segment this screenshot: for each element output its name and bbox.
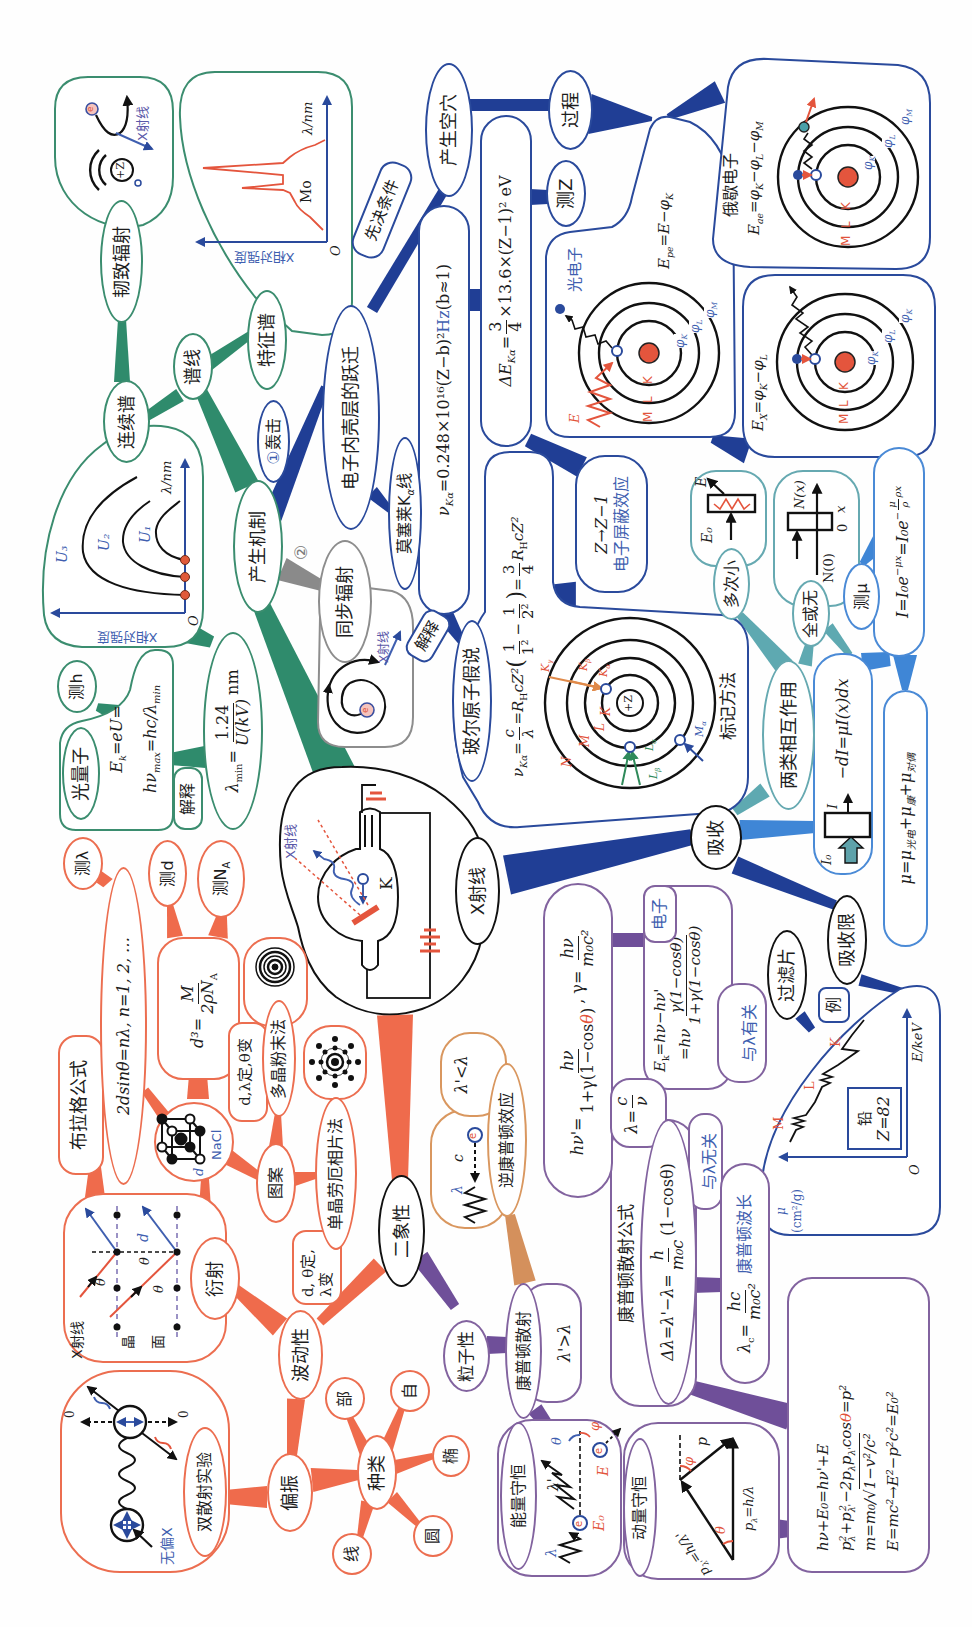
nucleus-label: +Z	[115, 162, 127, 179]
node-xray-root: X射线	[455, 837, 500, 945]
theta-label: θ	[550, 1437, 564, 1445]
node-kind-elliptical: 椭	[432, 1435, 470, 1477]
t4: cos	[837, 1422, 855, 1447]
crystal-name: NaCl	[210, 1130, 224, 1160]
screening-line2: 电子屏蔽效应	[612, 476, 631, 572]
s3: λ'	[846, 1447, 857, 1455]
eq2: =	[509, 578, 527, 591]
laue-pattern-picture	[303, 1025, 367, 1100]
node-pattern: 图案	[256, 1143, 296, 1223]
t: φ	[898, 315, 912, 323]
unit: nm	[223, 669, 242, 694]
t: L	[643, 744, 656, 751]
atomic-number: Z=82	[874, 1096, 893, 1141]
node-momentum-conservation: 动量守恒	[623, 1438, 657, 1577]
moseley-formula-box: νKα=0.248×10¹⁶(Z−b)²Hz(b≈1)	[418, 205, 470, 615]
b: =0.248×10¹⁶(Z−b)²	[434, 333, 453, 492]
node-bohr-hypothesis: 玻尔原子假说	[452, 620, 492, 782]
lhs: λ=	[622, 1110, 641, 1134]
edge-label-l: L	[803, 1081, 817, 1090]
relation-momentum: p2λ+p2λ'−2pλpλ'cosθ=p²	[835, 1385, 858, 1551]
incident-lambda-label: λ	[544, 1548, 559, 1557]
bragg-title: 布拉格公式	[68, 1060, 90, 1150]
node-synchrotron: 同步辐射	[318, 540, 372, 663]
characteristic-y-label: X相对强度	[224, 250, 304, 264]
origin-label: O	[329, 245, 343, 256]
t: φ	[703, 310, 717, 318]
shell-label: L	[642, 396, 655, 403]
denominator: m₀c²	[579, 928, 597, 969]
ek-sub: k	[117, 755, 128, 761]
shell-label: M	[642, 412, 655, 422]
s1: K	[664, 193, 675, 200]
s: α	[604, 664, 612, 669]
denominator: 1+γ(1−cosθ)	[687, 924, 704, 1027]
node-photon: 光量子	[62, 727, 100, 820]
route-2-number: ②	[292, 545, 311, 560]
node-two-interactions: 两类相互作用	[762, 660, 815, 810]
shell-label-n: N	[561, 757, 574, 768]
nu: ν	[509, 768, 527, 777]
lc: λ	[735, 1343, 754, 1353]
crystal-d-label: d	[192, 1168, 206, 1176]
s: β	[584, 659, 592, 663]
line-label-k-gamma: Kγ	[540, 660, 552, 672]
fraction: M2ρNA	[180, 971, 217, 1016]
t: 测N	[211, 868, 230, 896]
numerator: h	[650, 1248, 669, 1262]
coefficient-formula: μ=μ光电+μ康+μ对偶	[896, 753, 915, 885]
t: φ	[881, 335, 895, 343]
s: A	[222, 862, 233, 869]
b: =R	[509, 701, 527, 725]
origin-label: O	[908, 1164, 922, 1175]
ek: E	[651, 1061, 669, 1072]
shell-label-k: K	[600, 707, 613, 716]
e-label: E	[596, 1466, 611, 1476]
b: ×13.6×(Z−1)² eV	[496, 175, 515, 317]
node-process: 过程	[548, 70, 593, 150]
node-particle-nature: 粒子性	[443, 1320, 490, 1392]
attenuation-box: I=I₀e−μx=I₀e−μρρx	[873, 447, 925, 657]
s1: λ'	[847, 1504, 856, 1512]
d-sub: H	[518, 541, 529, 549]
t1: =φ	[745, 190, 763, 213]
numerator: 3	[488, 320, 507, 334]
compton-wavelength: λc=hcm₀c² 康普顿波长	[727, 1194, 764, 1353]
s: λ	[750, 1518, 759, 1523]
num: c	[502, 727, 520, 739]
electron-label-box: 电子	[643, 885, 677, 943]
t2: −2p	[837, 1471, 855, 1503]
s: L	[888, 330, 897, 335]
relation-mass: m=m₀/√1−v²/c²	[859, 1433, 882, 1551]
node-multiple-small: 多次小	[713, 548, 750, 620]
node-bremsstrahlung: 韧致辐射	[100, 200, 143, 323]
b: =I₀e	[892, 520, 911, 556]
lambda-sub: min	[151, 685, 162, 704]
s: L	[695, 320, 704, 325]
kinetic-line2: =hνγ(1−cosθ)1+γ(1−cosθ)	[669, 922, 704, 1072]
node-spectrum-lines: 谱线	[173, 333, 213, 400]
s3: M	[754, 121, 765, 131]
node-kind-linear: 线	[332, 1533, 372, 1575]
t1: +p	[837, 1512, 855, 1534]
cathode-label: K	[377, 877, 396, 890]
numerator: γ(1−cosθ)	[669, 935, 687, 1016]
node-energy-conservation: 能量守恒	[500, 1422, 537, 1570]
theta-label: θ	[152, 1285, 166, 1293]
denominator: ν	[633, 1094, 651, 1108]
electron-label: e	[467, 1133, 478, 1139]
line-label-m-alpha: Mα	[694, 721, 706, 737]
formula-line1: Ek=eU=	[100, 654, 134, 824]
eq: =	[223, 750, 242, 763]
electron-label: e	[86, 106, 96, 112]
bombard-text: ①轰击	[264, 418, 283, 464]
ek: E	[107, 761, 126, 773]
fraction: hν1+γ(1−cosθ)	[560, 1006, 597, 1116]
s0: ae	[754, 213, 765, 224]
t1: +μ	[896, 806, 915, 830]
plane-label-2: 面	[151, 1335, 166, 1349]
i0-label: I₀	[820, 855, 834, 865]
node-example: 例	[818, 987, 850, 1023]
theta: θ	[578, 1014, 597, 1024]
sup-fraction: μρ	[887, 499, 911, 509]
